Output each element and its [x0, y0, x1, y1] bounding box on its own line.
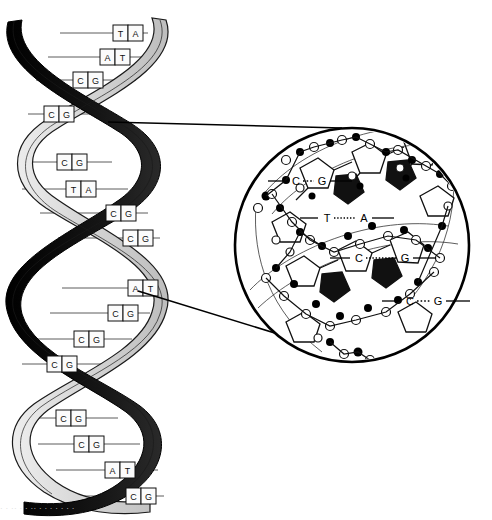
base-pair-tile: A T: [100, 49, 130, 65]
base-pair-tile: T A: [66, 181, 96, 197]
dna-illustration-canvas: T A A T C G: [0, 0, 492, 520]
base-pair-tile: C G: [74, 436, 104, 452]
base-pair-tile: C G: [57, 154, 87, 170]
inset-base-left: T: [324, 212, 331, 224]
base-pair-tile: C G: [108, 305, 138, 321]
inset-base-right: G: [434, 295, 443, 307]
base-pair-tile: T A: [113, 25, 143, 41]
base-pair-tile: C G: [73, 72, 103, 88]
inset-base-left: C: [355, 252, 363, 264]
base-pair-tile: C G: [106, 205, 136, 221]
base-pair-tile: A T: [128, 280, 158, 296]
base-pair-tile: A T: [105, 462, 135, 478]
inset-base-right: A: [360, 212, 368, 224]
magnified-inset: C G T A C G: [235, 126, 470, 364]
base-pair-tile: C G: [44, 106, 74, 122]
inset-base-right: G: [401, 252, 410, 264]
base-pair-tile: C G: [123, 230, 153, 246]
inset-base-left: C: [292, 175, 300, 187]
base-pair-tile: C G: [47, 356, 77, 372]
base-pair-tile: C G: [56, 410, 86, 426]
inset-base-right: G: [318, 175, 327, 187]
clipped-caption-row: · · ·· · · ·· · · · · · · ·: [0, 504, 492, 520]
base-pair-tile: C G: [126, 488, 156, 504]
base-pair-tile: C G: [74, 331, 104, 347]
dna-figure: T A A T C G: [0, 0, 492, 520]
inset-base-left: C: [406, 295, 414, 307]
